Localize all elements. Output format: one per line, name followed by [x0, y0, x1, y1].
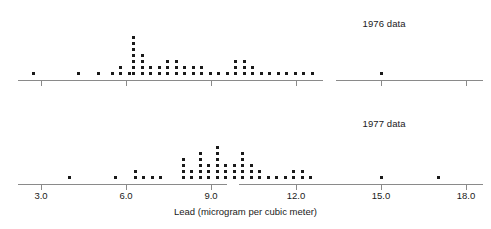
data-point	[216, 146, 219, 149]
data-point	[114, 176, 117, 179]
x-axis-tick-label: 12.0	[287, 190, 306, 201]
series-label-1976: 1976 data	[363, 18, 406, 29]
plot-area-1976	[0, 0, 491, 92]
data-point	[241, 158, 244, 161]
data-point	[119, 72, 122, 75]
data-point	[216, 170, 219, 173]
data-point	[158, 66, 161, 69]
data-point	[251, 72, 254, 75]
data-point	[243, 72, 246, 75]
data-point	[190, 176, 193, 179]
data-point	[258, 170, 261, 173]
data-point	[166, 60, 169, 63]
data-point	[301, 176, 304, 179]
data-point	[437, 176, 440, 179]
dot-plot-figure: 1976 data 1977 data 3.06.09.012.015.018.…	[0, 0, 491, 229]
x-axis-tick	[296, 81, 297, 86]
data-point	[234, 66, 237, 69]
data-point	[183, 72, 186, 75]
data-point	[182, 170, 185, 173]
data-point	[207, 164, 210, 167]
data-point	[199, 158, 202, 161]
data-point	[216, 164, 219, 167]
data-point	[182, 164, 185, 167]
data-point	[217, 72, 220, 75]
x-axis-tick-label: 3.0	[34, 190, 47, 201]
data-point	[141, 72, 144, 75]
data-point	[241, 176, 244, 179]
x-axis-tick	[41, 81, 42, 86]
x-axis-line	[18, 80, 483, 81]
data-point	[250, 164, 253, 167]
data-point	[183, 66, 186, 69]
data-point	[119, 66, 122, 69]
data-point	[68, 176, 71, 179]
data-point	[294, 72, 297, 75]
data-point	[258, 176, 261, 179]
data-point	[141, 54, 144, 57]
data-point	[77, 72, 80, 75]
data-point	[275, 176, 278, 179]
data-point	[216, 158, 219, 161]
data-point	[233, 176, 236, 179]
data-point	[132, 60, 135, 63]
series-label-1977: 1977 data	[363, 118, 406, 129]
data-point	[175, 72, 178, 75]
data-point	[199, 176, 202, 179]
data-point	[241, 164, 244, 167]
x-axis-line	[18, 184, 483, 185]
data-point	[285, 72, 288, 75]
data-point	[267, 176, 270, 179]
data-point	[190, 170, 193, 173]
data-point	[159, 176, 162, 179]
data-point	[132, 42, 135, 45]
data-point	[166, 72, 169, 75]
data-point	[302, 72, 305, 75]
data-point	[209, 72, 212, 75]
data-point	[182, 176, 185, 179]
data-point	[141, 60, 144, 63]
data-point	[151, 176, 154, 179]
panel-1977-data: 1977 data	[0, 98, 491, 196]
data-point	[182, 158, 185, 161]
data-point	[234, 72, 237, 75]
data-point	[132, 48, 135, 51]
data-point	[234, 60, 237, 63]
data-point	[224, 176, 227, 179]
data-point	[158, 72, 161, 75]
x-axis-tick-label: 18.0	[457, 190, 476, 201]
data-point	[132, 54, 135, 57]
x-axis-tick-label: 15.0	[372, 190, 391, 201]
data-point	[243, 66, 246, 69]
data-point	[134, 176, 137, 179]
data-point	[199, 164, 202, 167]
data-point	[142, 176, 145, 179]
data-point	[149, 66, 152, 69]
data-point	[226, 72, 229, 75]
data-point	[132, 36, 135, 39]
data-point	[132, 66, 135, 69]
data-point	[128, 72, 131, 75]
data-point	[301, 170, 304, 173]
data-point	[309, 176, 312, 179]
data-point	[111, 72, 114, 75]
data-point	[166, 66, 169, 69]
data-point	[268, 72, 271, 75]
plot-area-1977	[0, 98, 491, 196]
data-point	[175, 60, 178, 63]
data-point	[32, 72, 35, 75]
data-point	[241, 170, 244, 173]
x-axis-title: Lead (microgram per cubic meter)	[0, 206, 491, 217]
data-point	[175, 66, 178, 69]
data-point	[260, 72, 263, 75]
x-axis-tick	[466, 81, 467, 86]
data-point	[192, 72, 195, 75]
x-axis-tick-label: 6.0	[119, 190, 132, 201]
data-point	[192, 66, 195, 69]
data-point	[199, 152, 202, 155]
data-point	[224, 170, 227, 173]
data-point	[241, 152, 244, 155]
data-point	[134, 170, 137, 173]
data-point	[149, 72, 152, 75]
data-point	[141, 66, 144, 69]
